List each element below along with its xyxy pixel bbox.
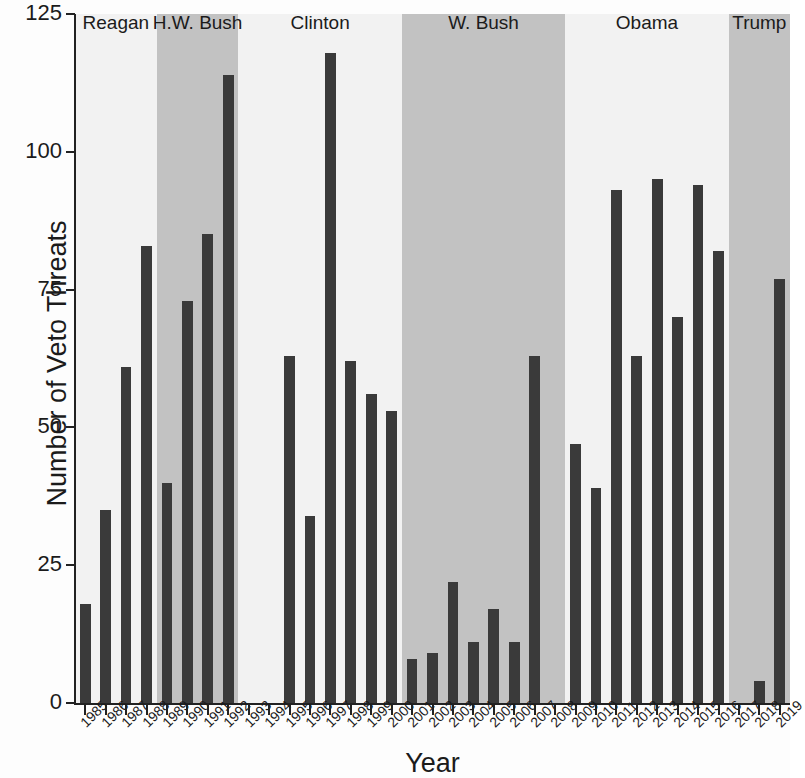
bar — [631, 356, 642, 703]
y-tick — [66, 289, 75, 291]
president-label-trump: Trump — [732, 12, 786, 34]
president-label-h-w-bush: H.W. Bush — [153, 12, 243, 34]
bar — [345, 361, 356, 703]
bar — [121, 367, 132, 703]
bar — [611, 190, 622, 703]
bar — [529, 356, 540, 703]
y-tick-label: 100 — [2, 138, 62, 164]
y-tick — [66, 426, 75, 428]
bar — [427, 653, 438, 703]
y-tick-label: 75 — [2, 276, 62, 302]
bar — [407, 659, 418, 703]
bar — [693, 185, 704, 703]
bar — [672, 317, 683, 703]
y-tick-label: 125 — [2, 0, 62, 26]
bar — [591, 488, 602, 703]
bar — [652, 179, 663, 703]
bar — [223, 75, 234, 703]
president-label-clinton: Clinton — [291, 12, 350, 34]
plot-area — [75, 14, 790, 703]
bar — [774, 279, 785, 703]
bar-series — [75, 14, 790, 703]
bar — [570, 444, 581, 703]
president-label-reagan: Reagan — [83, 12, 150, 34]
bar — [80, 604, 91, 703]
bar — [162, 483, 173, 703]
bar — [182, 301, 193, 703]
bar — [325, 53, 336, 703]
bar — [100, 510, 111, 703]
bar — [386, 411, 397, 703]
bar — [202, 234, 213, 703]
y-tick — [66, 564, 75, 566]
bar — [284, 356, 295, 703]
bar — [468, 642, 479, 703]
y-axis-title: Number of Veto Threats — [42, 14, 73, 714]
president-label-obama: Obama — [616, 12, 678, 34]
y-tick-label: 0 — [2, 689, 62, 715]
y-axis-line — [74, 14, 76, 704]
x-axis-title: Year — [75, 748, 790, 778]
y-tick — [66, 702, 75, 704]
y-tick-label: 25 — [2, 551, 62, 577]
president-label-w-bush: W. Bush — [448, 12, 519, 34]
bar — [488, 609, 499, 703]
y-tick — [66, 13, 75, 15]
bar — [366, 394, 377, 703]
bar — [509, 642, 520, 703]
bar — [141, 246, 152, 703]
y-tick-label: 50 — [2, 413, 62, 439]
bar — [448, 582, 459, 703]
bar — [713, 251, 724, 703]
bar — [305, 516, 316, 703]
y-tick — [66, 151, 75, 153]
